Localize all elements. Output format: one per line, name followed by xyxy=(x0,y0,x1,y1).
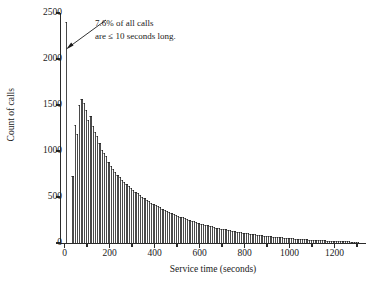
x-tick-minor xyxy=(311,244,312,247)
x-tick-minor xyxy=(221,244,222,247)
x-tick-label: 1200 xyxy=(305,249,365,259)
histogram-bars xyxy=(60,13,366,243)
histogram-figure: 05001000150020002500 0200400600800100012… xyxy=(0,0,378,288)
x-tick-minor xyxy=(266,244,267,247)
x-tick-minor xyxy=(131,244,132,247)
x-tick-minor xyxy=(86,244,87,247)
annotation-text: 7.6% of all calls are ≤ 10 seconds long. xyxy=(95,17,176,42)
histogram-bar xyxy=(65,22,67,243)
histogram-bar xyxy=(357,242,359,243)
x-tick-minor xyxy=(356,244,357,247)
annotation-line-2: are ≤ 10 seconds long. xyxy=(95,30,176,43)
x-axis-spine xyxy=(60,243,366,244)
x-axis-title: Service time (seconds) xyxy=(60,265,366,275)
annotation-line-1: 7.6% of all calls xyxy=(95,17,176,30)
x-tick-minor xyxy=(176,244,177,247)
y-axis-title: Count of calls xyxy=(7,70,17,160)
